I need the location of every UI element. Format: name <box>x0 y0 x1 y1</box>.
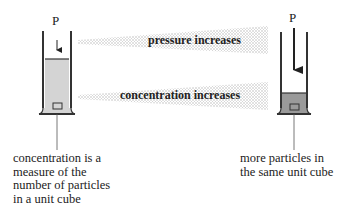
right-caption-line: more particles in <box>240 152 333 166</box>
left-cylinder <box>39 31 75 150</box>
left-caption-line: in a unit cube <box>13 193 110 207</box>
left-caption-line: concentration is a <box>13 152 110 166</box>
pressure-label-right: P <box>289 10 296 26</box>
left-caption-line: number of particles <box>13 179 110 193</box>
right-caption-line: the same unit cube <box>240 166 333 180</box>
left-caption: concentration is a measure of the number… <box>13 152 110 206</box>
pressure-label-left: P <box>52 13 59 29</box>
concentration-increases-label: concentration increases <box>120 88 240 103</box>
pressure-increases-label: pressure increases <box>148 33 241 48</box>
left-caption-line: measure of the <box>13 166 110 180</box>
right-caption: more particles in the same unit cube <box>240 152 333 179</box>
right-cylinder <box>277 28 311 150</box>
